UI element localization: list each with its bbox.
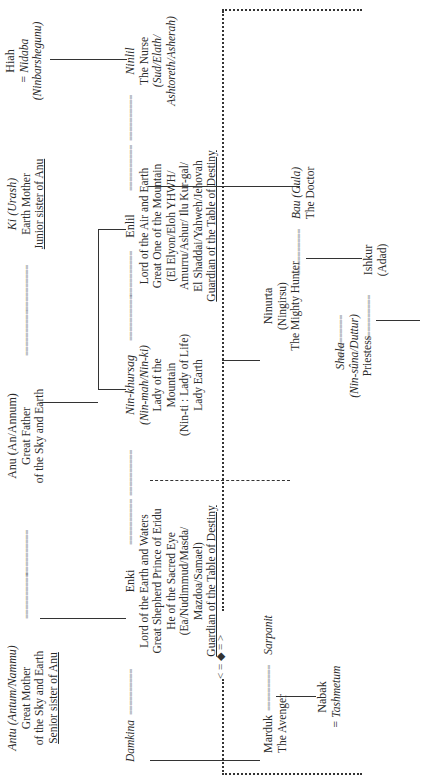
node-damkina: Damkina	[124, 711, 138, 771]
nabak-spouse: = Tashmetum	[330, 657, 344, 737]
line-enki-to-marduk	[150, 760, 260, 761]
enki-title-2: Great Shepherd Prince of Eridu	[151, 491, 165, 671]
marriage-enki-ninkhursag-2: ==========	[126, 450, 136, 496]
marriage-shala-ishkur-2: ==========	[364, 295, 374, 341]
node-hiah: Hiah = Nidaba (Ninbarshegunu)	[4, 6, 45, 116]
marriage-antu-anu-2: ==========	[22, 530, 32, 576]
marriage-enlil-ninlil: ==========	[126, 145, 136, 191]
dotted-vertical-left	[222, 773, 362, 775]
line-to-ninkhursag	[98, 389, 126, 390]
line-antu-to-enki	[40, 618, 126, 619]
hiah-name: Hiah	[4, 6, 18, 116]
hiah-alias: (Ninbarshegunu)	[31, 6, 45, 116]
node-bau: Bau (Gula) The Doctor	[290, 153, 317, 233]
node-nabak: Nabak = Tashmetum	[316, 657, 343, 737]
shala-alias: (Nin-sûna/Duttur)	[348, 301, 362, 411]
node-ninkhursag: Nin-khursag (Nin-mah/Nin-ki) Lady of the…	[124, 325, 205, 445]
sarpanit-name: Sarpanit	[262, 605, 276, 665]
anu-title-2: of the Sky and Earth	[33, 361, 47, 511]
node-enki: Enki Lord of the Earth and Waters Great …	[124, 491, 219, 671]
ninkhursag-title-1: Lady of the	[151, 325, 165, 445]
node-ninlil: Ninlil The Nurse (Sud/Elath/ Ashtoreth/A…	[124, 1, 178, 121]
enlil-title-2: Great One of the Mountain	[151, 141, 165, 311]
antu-underline: Senior sister of Anu	[47, 623, 61, 773]
enki-alias-2: Mazdoa/Samael)	[192, 491, 206, 671]
node-ishkur: Ishkur (Adad)	[362, 225, 389, 295]
ninkhursag-title-3: (Nin-ti : Lady of Life)	[178, 325, 192, 445]
ki-underline: Junior sister of Anu	[33, 139, 47, 269]
enki-alias-1: (Ea/Nudimmud/Masda/	[178, 491, 192, 671]
dotted-vertical-right	[222, 9, 362, 11]
antu-title-2: of the Sky and Earth	[33, 623, 47, 773]
ninurta-name: Ninurta	[262, 251, 276, 361]
marriage-anu-ki-2: ==========	[22, 265, 32, 311]
ishkur-alias: (Adad)	[376, 225, 390, 295]
marriage-damkina-enki: ==========	[126, 669, 136, 715]
marriage-anu-ki: ==========	[22, 310, 32, 356]
enlil-underline: Guardian of the Table of Destiny	[205, 141, 219, 311]
line-hiah-to-ninlil	[50, 59, 127, 60]
ninlil-alias-2: Ashtoreth/Asherah)	[165, 1, 179, 121]
node-sarpanit: Sarpanit	[262, 605, 276, 665]
enlil-alias-1: (El Elyon/Eloh YHWH/	[165, 141, 179, 311]
marriage-ninurta-bau: ==========	[294, 229, 304, 275]
ki-name: Ki (Urash)	[6, 139, 20, 269]
ninlil-alias-1: (Sud/Elath/	[151, 1, 165, 121]
antu-title-1: Great Mother	[20, 623, 34, 773]
node-antu: Antu (Antum/Nammu) Great Mother of the S…	[6, 623, 60, 773]
node-anu: Anu (An/Annum) Great Father of the Sky a…	[6, 361, 47, 511]
ninlil-name: Ninlil	[124, 1, 138, 121]
enlil-alias-3: El Shaddai/Yahweh/Jehovah	[192, 141, 206, 311]
ishkur-name: Ishkur	[362, 225, 376, 295]
marduk-title: The Avenger	[276, 663, 290, 753]
ki-title-1: Earth Mother	[20, 139, 34, 269]
marriage-antu-anu: ==========	[22, 573, 32, 619]
line-marduk-to-nabak	[276, 696, 316, 697]
dashed-divider	[150, 480, 290, 481]
marriage-enki-ninkhursag: ==========	[126, 499, 136, 545]
ninkhursag-title-4: Lady Earth	[192, 325, 206, 445]
antu-name: Antu (Antum/Nammu)	[6, 623, 20, 773]
rivalry-marker: < = ◆ = >	[214, 635, 227, 679]
line-to-enlil	[98, 229, 126, 230]
enki-title-3: He of the Sacred Eye	[165, 491, 179, 671]
nabak-name: Nabak	[316, 657, 330, 737]
hiah-spouse: = Nidaba	[18, 6, 32, 116]
ninkhursag-alias: (Nin-mah/Nin-ki)	[138, 325, 152, 445]
anu-name: Anu (An/Annum)	[6, 361, 20, 511]
damkina-name: Damkina	[124, 711, 138, 771]
line-gen2-enlil-bar	[148, 186, 300, 187]
bau-name: Bau (Gula)	[290, 153, 304, 233]
line-anu-ki-to-children	[40, 402, 98, 403]
marriage-marduk-sarpanit: ==========	[264, 665, 274, 711]
anu-title-1: Great Father	[20, 361, 34, 511]
ninurta-alias: (Ningirsu)	[276, 251, 290, 361]
sibling-bar	[98, 230, 99, 390]
line-enlil-to-ninurta	[222, 360, 260, 361]
genealogy-diagram: Antu (Antum/Nammu) Great Mother of the S…	[0, 0, 431, 781]
bau-title: The Doctor	[304, 153, 318, 233]
dotted-rivalry-right	[222, 11, 224, 611]
enlil-alias-2: Amurru/Ashur/ Ilu Kur-gal/	[178, 141, 192, 311]
ninkhursag-title-2: Mountain	[165, 325, 179, 445]
node-ki: Ki (Urash) Earth Mother Junior sister of…	[6, 139, 47, 269]
ninkhursag-name: Nin-khursag	[124, 325, 138, 445]
marriage-shala-ishkur: ==========	[336, 315, 346, 361]
line-ninurta-bau-to-ishkur	[306, 258, 362, 259]
ninlil-title: The Nurse	[138, 1, 152, 121]
enki-title-1: Lord of the Earth and Waters	[138, 491, 152, 671]
enlil-title-1: Lord of the Air and Earth	[138, 141, 152, 311]
line-shala-ishkur-drop	[376, 320, 420, 321]
node-enlil: Enlil Lord of the Air and Earth Great On…	[124, 141, 219, 311]
